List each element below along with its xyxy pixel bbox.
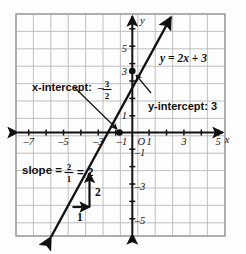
slope-fraction-numerator: 2 (67, 162, 72, 172)
x-intercept-fraction-sign: – (97, 81, 104, 93)
y-tick-label-1: 1 (122, 110, 127, 121)
x-tick-label--7: –7 (22, 136, 34, 147)
x-tick-label-3: 3 (180, 136, 186, 147)
y-axis-label: y (139, 15, 145, 26)
slope-value-label: = 2 (77, 166, 93, 178)
x-axis-label: x (224, 134, 230, 145)
y-tick-label--3: –3 (134, 181, 146, 192)
x-tick-label--1: –1 (116, 136, 128, 147)
y-tick-label--1: –1 (134, 147, 146, 158)
run-label: 1 (77, 211, 83, 223)
x-intercept-point (116, 129, 123, 136)
coordinate-plane-graph: –7 –5 –3 –1 1 3 5 O x y 5 3 1 –1 –3 –5 y… (0, 0, 246, 254)
slope-label: slope = (22, 164, 62, 176)
y-intercept-label: y-intercept: 3 (148, 100, 217, 112)
x-intercept-fraction-numerator: 3 (105, 79, 110, 89)
equation-label: y = 2x + 3 (158, 52, 207, 65)
figure-canvas: –7 –5 –3 –1 1 3 5 O x y 5 3 1 –1 –3 –5 y… (0, 0, 246, 254)
x-tick-label-5: 5 (215, 136, 220, 147)
y-tick-label--5: –5 (134, 215, 146, 226)
origin-label: O (138, 136, 146, 147)
x-tick-label--5: –5 (57, 136, 69, 147)
x-intercept-fraction-denominator: 2 (105, 91, 110, 101)
rise-label: 2 (95, 186, 101, 198)
y-tick-label-5: 5 (122, 43, 127, 54)
slope-fraction-denominator: 1 (67, 174, 72, 184)
x-tick-label-1: 1 (146, 136, 151, 147)
y-intercept-point (129, 68, 136, 75)
y-tick-label-3: 3 (121, 66, 127, 77)
x-intercept-label: x-intercept: (32, 81, 92, 93)
x-tick-label--3: –3 (92, 136, 104, 147)
